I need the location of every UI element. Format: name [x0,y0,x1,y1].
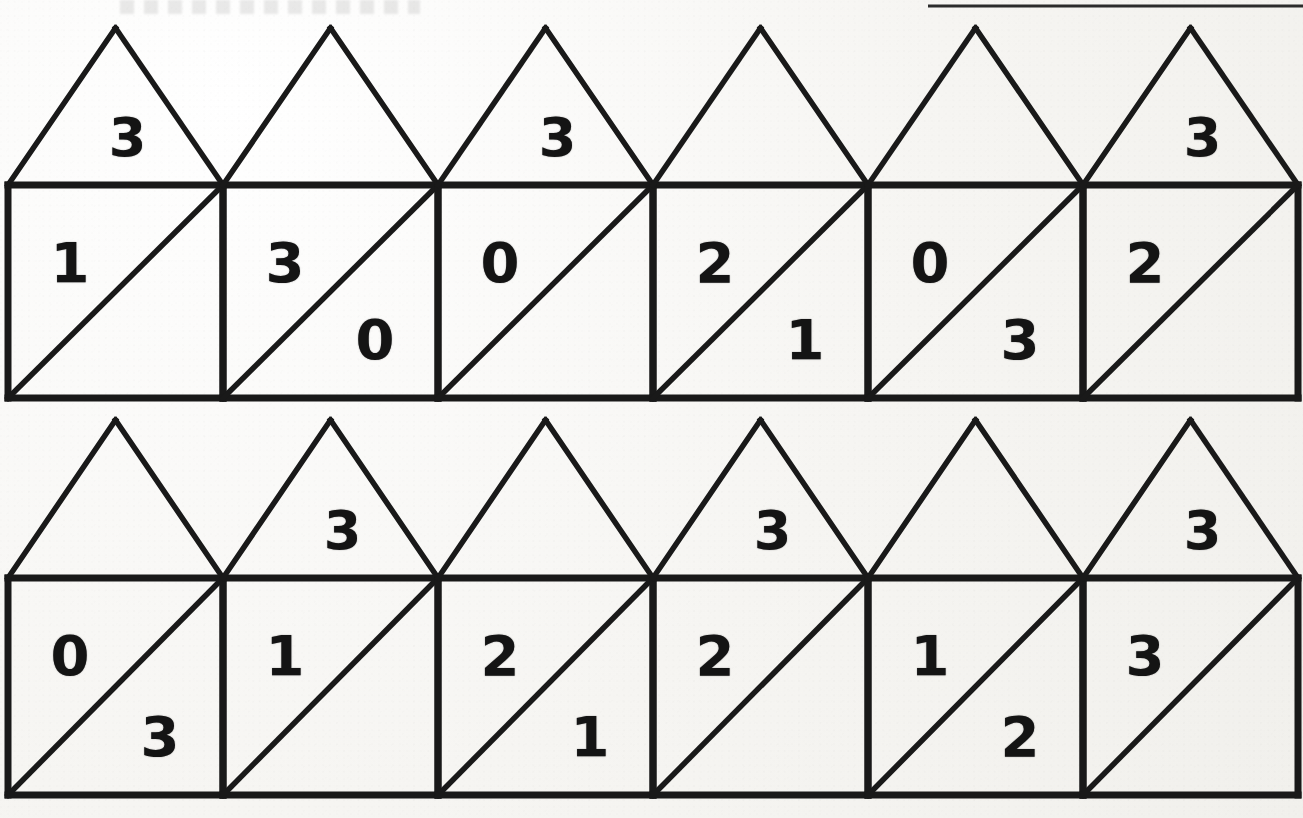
house-2-3-upper-left-digit: 2 [481,628,520,684]
house-1-5-roof-left [868,28,976,185]
house-1-5-roof-right [976,28,1084,185]
house-2-3-lower-right-digit: 1 [571,709,610,765]
house-2-4-roof-digit: 3 [754,504,792,558]
house-2-2-upper-left-digit: 1 [266,628,305,684]
house-1-6-roof-digit: 3 [1184,111,1222,165]
house-2-1-diagonal [8,578,223,795]
house-2-2-roof-digit: 3 [324,504,362,558]
house-2-6-upper-left-digit: 3 [1126,628,1165,684]
house-2-1-roof-right [116,420,224,578]
house-1-3-roof-left [438,28,546,185]
house-1-6-diagonal [1083,185,1298,398]
house-1-2-roof-left [223,28,331,185]
house-2-1-lower-right-digit: 3 [141,709,180,765]
house-1-4-roof-left [653,28,761,185]
house-1-4-diagonal [653,185,868,398]
house-2-5-upper-left-digit: 1 [911,628,950,684]
house-1-4-roof-right [761,28,869,185]
house-1-3-upper-left-digit: 0 [481,235,520,291]
house-2-5-roof-right [976,420,1084,578]
worksheet-sheet: 313030210332033121321233 [0,0,1303,818]
house-1-2-upper-left-digit: 3 [266,235,305,291]
house-1-2-diagonal [223,185,438,398]
house-2-5-diagonal [868,578,1083,795]
house-2-2-roof-left [223,420,331,578]
house-2-4-diagonal [653,578,868,795]
house-2-3-diagonal [438,578,653,795]
house-1-4-lower-right-digit: 1 [786,312,825,368]
house-1-4-upper-left-digit: 2 [696,235,735,291]
house-1-2-roof-right [331,28,439,185]
house-2-1-roof-left [8,420,116,578]
house-2-1-upper-left-digit: 0 [51,628,90,684]
house-1-5-lower-right-digit: 3 [1001,312,1040,368]
house-2-3-roof-right [546,420,654,578]
house-2-6-roof-left [1083,420,1191,578]
house-1-2-lower-right-digit: 0 [356,312,395,368]
house-2-4-upper-left-digit: 2 [696,628,735,684]
house-1-1-upper-left-digit: 1 [51,235,90,291]
house-1-6-upper-left-digit: 2 [1126,235,1165,291]
house-2-4-roof-left [653,420,761,578]
house-1-5-upper-left-digit: 0 [911,235,950,291]
house-diagram-canvas [0,0,1303,818]
house-shapes-group [8,28,1298,795]
house-1-5-diagonal [868,185,1083,398]
house-1-6-roof-left [1083,28,1191,185]
house-2-3-roof-left [438,420,546,578]
house-1-1-diagonal [8,185,223,398]
house-2-5-roof-left [868,420,976,578]
house-1-1-roof-left [8,28,116,185]
house-1-1-roof-digit: 3 [109,111,147,165]
house-2-2-diagonal [223,578,438,795]
house-2-6-roof-digit: 3 [1184,504,1222,558]
house-1-3-diagonal [438,185,653,398]
house-1-3-roof-digit: 3 [539,111,577,165]
house-2-6-diagonal [1083,578,1298,795]
house-2-5-lower-right-digit: 2 [1001,709,1040,765]
